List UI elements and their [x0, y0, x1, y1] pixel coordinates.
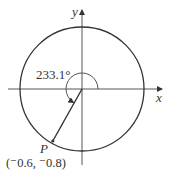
- angle-label: 233.1°: [36, 67, 70, 82]
- point-p: [51, 139, 54, 142]
- x-axis-label: x: [155, 90, 162, 105]
- y-axis-label: y: [70, 4, 78, 19]
- point-label: P: [39, 141, 48, 156]
- point-coordinates: (⁻0.6, ⁻0.8): [6, 156, 66, 170]
- unit-circle-diagram: 233.1° x y P (⁻0.6, ⁻0.8): [0, 0, 175, 181]
